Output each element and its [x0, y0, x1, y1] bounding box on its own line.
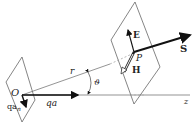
- point-label: P: [135, 53, 143, 63]
- acceleration-label: qa: [46, 98, 57, 108]
- angle-label: ϑ: [94, 78, 100, 87]
- origin-label: O: [11, 87, 19, 98]
- radius-label: r: [70, 66, 75, 76]
- normal-acceleration-arrow: [22, 95, 26, 107]
- normal-acceleration-sub: n: [17, 105, 21, 112]
- electric-field-label: E: [133, 30, 140, 40]
- normal-acceleration-base: qa: [7, 102, 17, 111]
- magnetic-field-label: H: [132, 65, 141, 75]
- angle-arc: [88, 72, 91, 94]
- radiation-diagram: O qa qan r ϑ P E H S z: [0, 0, 196, 124]
- poynting-label: S: [180, 43, 187, 54]
- acceleration-text: qa: [46, 98, 57, 108]
- normal-acceleration-label: qan: [7, 102, 21, 112]
- z-axis-label: z: [183, 97, 189, 106]
